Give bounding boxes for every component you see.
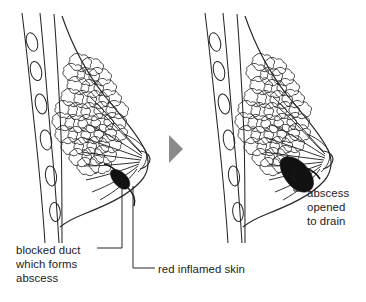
leader-red-inflamed-skin xyxy=(133,186,155,268)
label-red-inflamed-skin: red inflamed skin xyxy=(158,262,245,276)
illustration-canvas: blocked duct which forms abscess red inf… xyxy=(0,0,366,302)
label-abscess-opened-to-drain: abscess opened to drain xyxy=(307,186,349,229)
label-blocked-duct: blocked duct which forms abscess xyxy=(16,243,81,286)
left-panel xyxy=(22,13,150,243)
progression-arrow xyxy=(169,135,183,163)
